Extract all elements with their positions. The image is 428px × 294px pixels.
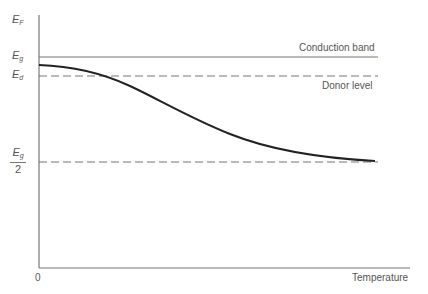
- ed-sub: d: [19, 74, 23, 81]
- eg-half-label: Eg 2: [10, 146, 26, 175]
- eg-half-denominator: 2: [10, 163, 26, 175]
- y-axis-label: EF: [12, 13, 24, 26]
- donor-level-label: Donor level: [322, 80, 373, 91]
- eg-sub: g: [19, 55, 23, 62]
- eg-half-numerator: Eg: [10, 146, 26, 163]
- x-axis-label: Temperature: [352, 272, 408, 283]
- ed-label: Ed: [12, 68, 23, 81]
- eg-half-symbol: E: [12, 146, 19, 158]
- origin-label: 0: [35, 272, 41, 283]
- eg-half-sub: g: [20, 152, 24, 159]
- eg-label: Eg: [12, 49, 23, 62]
- y-axis-label-sub: F: [19, 19, 23, 26]
- conduction-band-label: Conduction band: [299, 42, 375, 53]
